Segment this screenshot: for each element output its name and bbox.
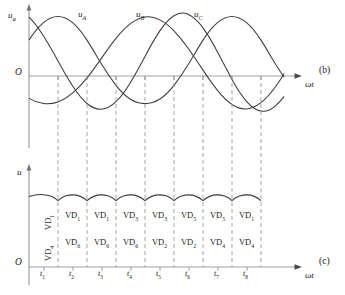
conduction-cell-upper-7: VD1 [232,211,261,222]
panel-c-origin-label: O [15,258,22,268]
conduction-cell-lower-7: VD4 [232,238,261,249]
conduction-cell-upper-0: VD1 [44,215,55,230]
wave-label-ua: uA [78,10,86,21]
conduction-cell-lower-1: VD6 [58,238,87,249]
tick-label-t1: t1 [40,270,45,280]
conduction-cell-lower-0: VD4 [44,246,55,261]
waveform-ua [29,17,284,104]
tick-label-t3: t3 [98,270,103,280]
panel-c-y-axis-label: u [17,168,22,177]
conduction-cell-lower-4: VD2 [145,238,174,249]
tick-label-t4: t4 [127,270,132,280]
waveform-uc [29,13,284,111]
conduction-cell-upper-1: VD1 [58,211,87,222]
conduction-cell-upper-4: VD3 [145,211,174,222]
conduction-cell-upper-3: VD3 [116,211,145,222]
waveform-figure: uφ O ωt uA uB uC (b) u O ωt (c) t1 t2 t3… [0,0,345,295]
panel-b-tag: (b) [319,66,330,76]
panel-c-tag: (c) [319,257,330,267]
tick-label-t5: t5 [156,270,161,280]
conduction-cell-lower-2: VD6 [87,238,116,249]
panel-b-y-axis-label: uφ [8,11,16,22]
panel-c-y-axis-arrow [27,164,32,171]
wave-label-uc: uC [194,10,203,21]
panel-c-x-axis-label: ωt [305,271,314,280]
panel-b-origin-label: O [15,68,22,78]
conduction-cell-upper-5: VD5 [174,211,203,222]
conduction-cell-lower-6: VD4 [203,238,232,249]
conduction-cell-upper-2: VD1 [87,211,116,222]
wave-label-ub: uB [136,10,144,21]
conduction-cell-lower-5: VD2 [174,238,203,249]
tick-label-t7: t7 [214,270,219,280]
panel-c-x-axis-arrow [295,264,303,270]
panel-b-x-axis-label: ωt [305,80,314,89]
conduction-cell-upper-6: VD5 [203,211,232,222]
tick-label-t6: t6 [185,270,190,280]
tick-label-t2: t2 [69,270,74,280]
panel-b-x-axis-arrow [295,73,303,79]
tick-label-t8: t8 [243,270,248,280]
conduction-cell-lower-3: VD6 [116,238,145,249]
panel-b-y-axis-arrow [27,4,32,11]
waveform-ub [29,17,284,109]
